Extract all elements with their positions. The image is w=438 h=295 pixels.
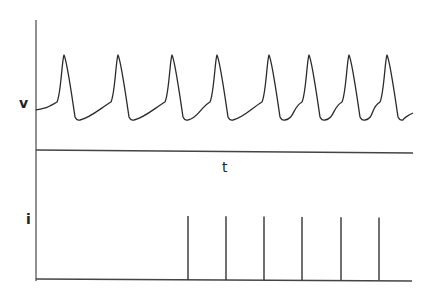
diagram-canvas bbox=[0, 0, 438, 295]
i-axis-label: i bbox=[26, 212, 31, 226]
t-axis-label: t bbox=[222, 160, 228, 174]
i-baseline-axis bbox=[36, 279, 412, 281]
v-axis-label: v bbox=[19, 96, 28, 110]
t-axis bbox=[36, 150, 413, 153]
current-pulses bbox=[188, 216, 379, 280]
voltage-trace bbox=[36, 55, 413, 120]
